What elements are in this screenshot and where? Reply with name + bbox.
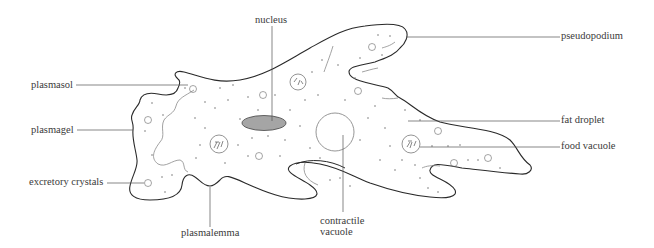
nucleus-shape [242, 116, 286, 131]
label-food-vacuole: food vacuole [561, 140, 616, 151]
label-plasmasol: plasmasol [31, 79, 73, 90]
inner-line-right [382, 98, 398, 99]
label-plasmagel: plasmagel [31, 124, 74, 135]
food-vacuoles [210, 74, 420, 153]
label-plasmalemma: plasmalemma [181, 227, 239, 238]
plasmagel-boundary [154, 90, 194, 172]
label-pseudopodium: pseudopodium [561, 30, 623, 41]
inner-line-pseudopod-top [382, 42, 395, 48]
leader-lines [76, 26, 560, 227]
label-fat-droplet: fat droplet [561, 114, 604, 125]
inner-line-top [324, 46, 333, 72]
inner-line-bottom [304, 163, 318, 185]
cytoplasm-dots [144, 34, 501, 193]
inner-line-pseudopod-mid [362, 68, 378, 72]
label-contractile-vacuole-line2: vacuole [320, 226, 353, 237]
label-contractile-vacuole-line1: contractile [320, 215, 364, 226]
label-nucleus: nucleus [255, 14, 287, 25]
contractile-vacuole-shape [316, 113, 354, 151]
amoeba-diagram [0, 0, 654, 248]
label-excretory-crystals: excretory crystals [29, 176, 103, 187]
cell-outline [130, 24, 532, 200]
